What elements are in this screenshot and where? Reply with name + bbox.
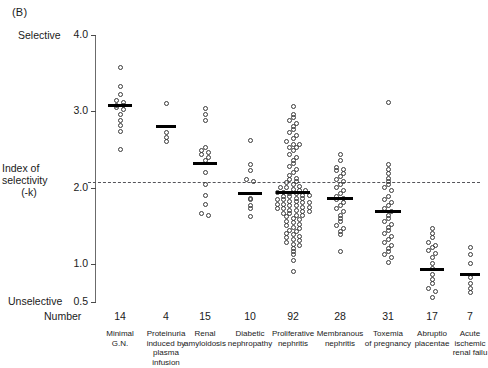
data-point <box>203 118 208 123</box>
data-point <box>199 211 204 216</box>
data-point <box>287 164 292 169</box>
data-point <box>426 248 431 253</box>
data-point <box>430 255 435 260</box>
group-count: 28 <box>315 310 365 322</box>
y-axis-title-line-2: selectivity <box>2 174 62 186</box>
group-count: 31 <box>363 310 413 322</box>
data-point <box>297 243 302 248</box>
y-axis-title-line-1: Index of <box>2 162 62 174</box>
group-name-line: G.N. <box>95 339 145 349</box>
data-point <box>199 152 204 157</box>
data-point <box>118 92 123 97</box>
group-name-line: Acute <box>445 329 488 339</box>
group-name-line: amyloidosis <box>180 339 230 349</box>
y-tick-label: 4.0 <box>62 28 88 40</box>
number-row-label: Number <box>44 310 81 322</box>
mean-marker <box>193 162 217 165</box>
data-point <box>164 139 169 144</box>
figure-panel-b: (B) Selective Unselective Index of selec… <box>0 0 488 368</box>
data-point <box>248 138 253 143</box>
y-axis-title-line-3: (-k) <box>2 186 56 198</box>
data-point <box>433 289 438 294</box>
y-tick-label: 2.0 <box>62 181 88 193</box>
group-count: 92 <box>268 310 318 322</box>
group-name-line: nephritis <box>315 339 365 349</box>
data-point <box>468 245 473 250</box>
data-point <box>118 65 123 70</box>
data-point <box>382 252 387 257</box>
data-point <box>338 232 343 237</box>
group-count: 15 <box>180 310 230 322</box>
data-point <box>382 185 387 190</box>
data-point <box>338 158 343 163</box>
data-point <box>248 168 253 173</box>
data-point <box>118 112 123 117</box>
data-point <box>287 130 292 135</box>
data-point <box>203 182 208 187</box>
mean-marker <box>276 191 310 194</box>
data-point <box>334 206 339 211</box>
group-name-line: infusion <box>141 358 191 368</box>
group-name: Renalamyloidosis <box>180 329 230 348</box>
data-point <box>287 118 292 123</box>
data-point <box>164 101 169 106</box>
data-point <box>291 258 296 263</box>
data-point <box>291 136 296 141</box>
group-name: Acuteischemicrenal failu <box>445 329 488 358</box>
group-name-line: nephritis <box>268 339 318 349</box>
data-point <box>430 281 435 286</box>
mean-marker <box>375 210 401 213</box>
data-point <box>118 123 123 128</box>
group-name-line: of pregnancy <box>363 339 413 349</box>
data-point <box>287 152 292 157</box>
y-tick-mark <box>91 35 96 36</box>
data-point <box>426 286 431 291</box>
mean-marker <box>327 197 353 200</box>
data-point <box>203 106 208 111</box>
data-point <box>291 104 296 109</box>
mean-marker <box>156 125 176 128</box>
data-point <box>430 235 435 240</box>
data-point <box>203 193 208 198</box>
data-point <box>206 213 211 218</box>
group-name: Membranousnephritis <box>315 329 365 348</box>
data-point <box>382 219 387 224</box>
data-point <box>334 185 339 190</box>
y-tick-mark <box>91 264 96 265</box>
data-point <box>291 252 296 257</box>
data-point <box>118 84 123 89</box>
group-name-line: Toxemia <box>363 329 413 339</box>
data-point <box>248 214 253 219</box>
data-point <box>248 162 253 167</box>
data-point <box>307 209 312 214</box>
panel-label: (B) <box>12 6 27 18</box>
group-count: 7 <box>445 310 488 322</box>
data-point <box>284 240 289 245</box>
data-point <box>430 295 435 300</box>
y-tick-label: 0.5 <box>62 295 88 307</box>
data-point <box>468 252 473 257</box>
data-point <box>389 188 394 193</box>
data-point <box>468 261 473 266</box>
axis-label-selective: Selective <box>18 29 61 41</box>
data-point <box>382 231 387 236</box>
group-name-line: plasma <box>141 348 191 358</box>
y-tick-mark <box>91 188 96 189</box>
data-point <box>203 112 208 117</box>
data-point <box>468 290 473 295</box>
data-point <box>338 249 343 254</box>
data-point <box>248 206 253 211</box>
group-name-line: renal failu <box>445 348 488 358</box>
data-point <box>338 152 343 157</box>
data-point <box>118 129 123 134</box>
data-point <box>334 223 339 228</box>
group-name: MinimalG.N. <box>95 329 145 348</box>
y-axis-line <box>95 35 96 302</box>
mean-marker <box>420 268 444 271</box>
group-count: 14 <box>95 310 145 322</box>
mean-marker <box>238 192 262 195</box>
data-point <box>334 168 339 173</box>
data-point <box>118 147 123 152</box>
group-name: Toxemiaof pregnancy <box>363 329 413 348</box>
group-name: Proliferativenephritis <box>268 329 318 348</box>
